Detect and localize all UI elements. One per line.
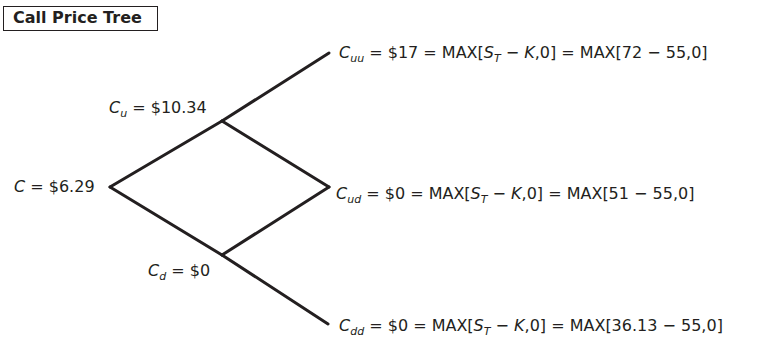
node-ud-var: C (336, 184, 347, 203)
node-up-label: Cu = $10.34 (109, 98, 207, 118)
node-uu-k: K (524, 43, 535, 62)
node-dd-label: Cdd = $0 = MAX[ST − K,0] = MAX[36.13 − 5… (339, 316, 723, 336)
node-uu-st-sub: T (494, 52, 501, 65)
edge-root-down (110, 187, 222, 255)
node-dd-rest: ,0] = MAX[36.13 − 55,0] (525, 316, 723, 335)
edge-down-ud (222, 187, 329, 255)
node-ud-k: K (511, 184, 522, 203)
node-dd-sub: dd (350, 325, 364, 338)
node-down-value: $0 (190, 261, 210, 280)
node-down-label: Cd = $0 (148, 261, 210, 281)
node-root-eq: = (25, 177, 49, 196)
node-up-eq: = (127, 98, 151, 117)
edge-down-dd (222, 255, 328, 324)
node-ud-rest: ,0] = MAX[51 − 55,0] (522, 184, 695, 203)
node-uu-minus: − (501, 43, 525, 62)
node-ud-st: S (471, 184, 481, 203)
node-ud-sub: ud (347, 193, 361, 206)
node-root-label: C = $6.29 (14, 177, 95, 197)
edge-root-up (110, 121, 222, 187)
edge-up-uu (222, 53, 329, 121)
node-dd-minus: − (491, 316, 515, 335)
node-dd-value: = $0 = MAX[ (364, 316, 473, 335)
node-uu-rest: ,0] = MAX[72 − 55,0] (535, 43, 708, 62)
node-uu-label: Cuu = $17 = MAX[ST − K,0] = MAX[72 − 55,… (339, 43, 708, 63)
node-uu-sub: uu (350, 52, 364, 65)
node-uu-var: C (339, 43, 350, 62)
node-dd-var: C (339, 316, 350, 335)
node-dd-k: K (514, 316, 525, 335)
node-down-eq: = (166, 261, 190, 280)
node-ud-label: Cud = $0 = MAX[ST − K,0] = MAX[51 − 55,0… (336, 184, 694, 204)
node-uu-value: = $17 = MAX[ (364, 43, 484, 62)
edge-up-ud (222, 121, 329, 187)
node-uu-st: S (484, 43, 494, 62)
node-up-var: C (109, 98, 120, 117)
node-dd-st: S (474, 316, 484, 335)
node-root-value: $6.29 (49, 177, 95, 196)
node-ud-value: = $0 = MAX[ (361, 184, 470, 203)
node-up-value: $10.34 (151, 98, 207, 117)
node-dd-st-sub: T (484, 325, 491, 338)
node-ud-st-sub: T (481, 193, 488, 206)
node-down-var: C (148, 261, 159, 280)
node-root-var: C (14, 177, 25, 196)
node-ud-minus: − (488, 184, 512, 203)
